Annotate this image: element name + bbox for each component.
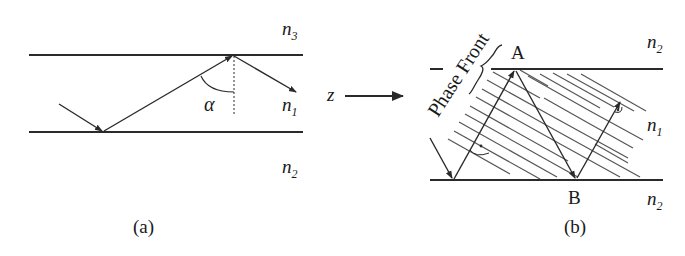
- label-n3: n3: [282, 18, 298, 43]
- ray-from-b: [577, 102, 620, 178]
- label-n2-bottom-b: n2: [647, 188, 663, 213]
- incident-ray-b: [430, 138, 452, 178]
- waveguide-diagram: α n3 n1 n2 (a) z: [0, 0, 685, 256]
- label-n1-b: n1: [647, 114, 663, 139]
- phase-front-hatching: [448, 70, 646, 179]
- label-n2-top-b: n2: [647, 31, 663, 56]
- propagation-indicator: z: [326, 84, 403, 105]
- caption-a: (a): [133, 216, 154, 238]
- incident-ray-arrow: [59, 104, 102, 131]
- right-angle-dot-upper: [617, 109, 619, 111]
- refracted-ray-arrow: [234, 56, 296, 92]
- z-axis-label: z: [326, 84, 335, 105]
- right-angle-marker-lower: [470, 150, 489, 155]
- angle-alpha-label: α: [204, 93, 215, 115]
- phase-front-label: Phase Front: [423, 28, 493, 120]
- caption-b: (b): [564, 216, 586, 238]
- panel-a: α n3 n1 n2 (a): [29, 18, 303, 238]
- right-angle-dot-lower: [480, 145, 483, 148]
- point-b-label: B: [568, 187, 581, 208]
- label-n1-a: n1: [282, 94, 298, 119]
- point-a-label: A: [511, 42, 525, 63]
- angle-arc: [201, 76, 234, 92]
- panel-b: Phase Front A B n2 n1 n2 (b): [423, 28, 663, 238]
- label-n2-a: n2: [282, 156, 298, 181]
